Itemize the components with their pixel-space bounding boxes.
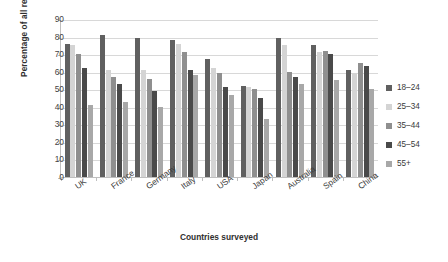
bar <box>111 77 116 177</box>
bar <box>176 44 181 177</box>
bar <box>223 87 228 177</box>
bar <box>70 45 75 177</box>
y-tick-label: 20 <box>42 138 64 147</box>
y-axis-title-container: Percentage of all respondents <box>0 0 30 190</box>
bar <box>287 72 292 177</box>
legend-label: 55+ <box>397 159 411 168</box>
bar <box>193 75 198 177</box>
bar <box>205 59 210 177</box>
legend: 18–2425–3435–4445–5455+ <box>386 78 448 173</box>
legend-swatch-icon <box>386 85 392 91</box>
x-axis-labels: UKFranceGermanyItalyUSAJapanAustraliaSpa… <box>60 178 378 224</box>
bar-group <box>131 20 166 177</box>
plot-area <box>60 20 378 178</box>
bar <box>246 87 251 177</box>
bar <box>317 52 322 177</box>
bar-group <box>308 20 343 177</box>
bar-chart: Percentage of all respondents 9080706050… <box>0 0 448 262</box>
bar <box>352 73 357 177</box>
bar <box>282 45 287 177</box>
bar <box>311 45 316 177</box>
legend-item[interactable]: 35–44 <box>386 116 448 135</box>
bar <box>152 91 157 177</box>
legend-item[interactable]: 55+ <box>386 154 448 173</box>
y-tick-label: 50 <box>42 85 64 94</box>
legend-label: 45–54 <box>397 140 420 149</box>
bar <box>141 70 146 177</box>
legend-swatch-icon <box>386 104 392 110</box>
bar <box>188 70 193 177</box>
bar <box>147 79 152 177</box>
bar-group <box>96 20 131 177</box>
legend-swatch-icon <box>386 142 392 148</box>
bar <box>334 80 339 177</box>
y-axis-title: Percentage of all respondents <box>18 0 32 102</box>
bar <box>76 54 81 177</box>
bar <box>299 84 304 177</box>
bar <box>258 98 263 177</box>
bar <box>369 89 374 177</box>
y-tick-label: 60 <box>42 68 64 77</box>
bar <box>88 105 93 177</box>
legend-label: 18–24 <box>397 83 420 92</box>
bar <box>123 102 128 177</box>
legend-label: 35–44 <box>397 121 420 130</box>
bar <box>358 63 363 177</box>
legend-label: 25–34 <box>397 102 420 111</box>
bar-group <box>272 20 307 177</box>
bar <box>217 73 222 177</box>
x-axis-label-uk: UK <box>73 176 88 191</box>
bar <box>100 35 105 177</box>
bar <box>252 89 257 177</box>
y-tick-label: 30 <box>42 120 64 129</box>
bar-group <box>167 20 202 177</box>
bar <box>293 77 298 177</box>
bar <box>158 107 163 177</box>
bar <box>364 66 369 177</box>
bar <box>211 68 216 177</box>
bar <box>182 52 187 177</box>
y-tick-label: 10 <box>42 155 64 164</box>
bar-group <box>61 20 96 177</box>
y-tick-label: 80 <box>42 33 64 42</box>
bar-group <box>237 20 272 177</box>
bar <box>323 51 328 177</box>
bar <box>106 70 111 177</box>
bar-group <box>343 20 378 177</box>
bar <box>276 38 281 177</box>
bar-groups <box>61 20 378 177</box>
x-axis-title: Countries surveyed <box>60 232 378 242</box>
y-tick-label: 70 <box>42 50 64 59</box>
legend-item[interactable]: 25–34 <box>386 97 448 116</box>
legend-swatch-icon <box>386 161 392 167</box>
bar <box>346 70 351 177</box>
bar <box>65 44 70 177</box>
legend-swatch-icon <box>386 123 392 129</box>
y-tick-label: 40 <box>42 103 64 112</box>
bar <box>328 54 333 177</box>
bar <box>170 40 175 177</box>
y-tick-label: 90 <box>42 15 64 24</box>
bar <box>241 86 246 177</box>
bar-group <box>202 20 237 177</box>
bar <box>117 84 122 177</box>
bar <box>135 38 140 177</box>
legend-item[interactable]: 45–54 <box>386 135 448 154</box>
legend-item[interactable]: 18–24 <box>386 78 448 97</box>
bar <box>82 68 87 177</box>
bar <box>229 95 234 178</box>
